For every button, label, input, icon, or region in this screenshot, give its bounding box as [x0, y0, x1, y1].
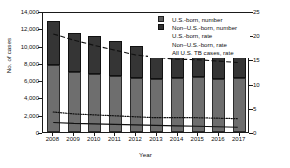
- tb-cases-chart: No. of cases Cases per 100,000 populatio…: [0, 0, 290, 168]
- x-axis-tick-mark: [94, 133, 95, 136]
- legend-key-swatch: [150, 24, 172, 30]
- x-axis-tick-mark: [239, 133, 240, 136]
- y-axis-left-tick-mark: [38, 133, 42, 134]
- x-axis-tick-label: 2008: [46, 136, 59, 142]
- legend-key-swatch: [150, 16, 172, 22]
- y-axis-left-tick-label: 6,000: [24, 78, 39, 84]
- line-all-u-s-tb-cases-rate: [53, 112, 238, 119]
- x-axis-tick-mark: [197, 133, 198, 136]
- y-axis-left-tick-label: 12,000: [21, 26, 39, 32]
- x-axis-tick-mark: [52, 133, 53, 136]
- x-axis-tick-label: 2015: [191, 136, 204, 142]
- y-axis-right-tick-label: 10: [253, 82, 260, 88]
- y-axis-right-tick-label: 20: [253, 33, 260, 39]
- y-axis-right-tick-label: 15: [253, 57, 260, 63]
- y-axis-left-tick-label: 4,000: [24, 95, 39, 101]
- x-axis-tick-mark: [135, 133, 136, 136]
- legend-item-label: All U.S. TB cases, rate: [172, 49, 234, 56]
- legend-item-label: U.S.-born, rate: [172, 32, 212, 39]
- y-axis-left-tick-label: 2,000: [24, 113, 39, 119]
- x-axis-tick-mark: [73, 133, 74, 136]
- legend-item: U.S.-born, rate: [150, 32, 248, 40]
- x-axis-tick-mark: [156, 133, 157, 136]
- y-axis-right-tick-mark: [249, 60, 253, 61]
- legend-swatch-us-born-icon: [158, 16, 164, 22]
- y-axis-left-title: No. of cases: [5, 26, 12, 86]
- x-axis-tick-mark: [114, 133, 115, 136]
- x-axis-tick-label: 2011: [108, 136, 121, 142]
- y-axis-right-tick-label: 25: [253, 9, 260, 15]
- legend-item: All U.S. TB cases, rate: [150, 48, 248, 56]
- y-axis-left-tick-label: 10,000: [21, 44, 39, 50]
- x-axis-tick-mark: [177, 133, 178, 136]
- x-axis-tick-label: 2017: [232, 136, 245, 142]
- x-axis-title: Year: [42, 151, 249, 158]
- y-axis-right-tick-mark: [249, 133, 253, 134]
- legend-swatch-non-us-born-icon: [158, 24, 164, 30]
- x-axis-tick-mark: [218, 133, 219, 136]
- x-axis-tick-label: 2009: [66, 136, 79, 142]
- legend-item-label: U.S.-born, number: [172, 16, 222, 23]
- y-axis-left-tick-label: 14,000: [21, 9, 39, 15]
- chart-legend: U.S.-born, numberNon–U.S.-born, numberU.…: [148, 13, 250, 58]
- x-axis-tick-label: 2010: [87, 136, 100, 142]
- y-axis-right-tick-mark: [249, 109, 253, 110]
- x-axis-tick-label: 2016: [211, 136, 224, 142]
- legend-item-label: Non–U.S.-born, rate: [172, 41, 227, 48]
- legend-item: Non–U.S.-born, number: [150, 23, 248, 31]
- legend-item-label: Non–U.S.-born, number: [172, 24, 237, 31]
- x-axis-tick-label: 2014: [170, 136, 183, 142]
- y-axis-left-tick-label: 8,000: [24, 61, 39, 67]
- legend-item: U.S.-born, number: [150, 15, 248, 23]
- x-axis-tick-label: 2013: [149, 136, 162, 142]
- y-axis-right-tick-label: 0: [253, 130, 256, 136]
- y-axis-right-tick-mark: [249, 85, 253, 86]
- line-u-s-born-rate: [53, 122, 238, 127]
- x-axis-tick-label: 2012: [128, 136, 141, 142]
- legend-item: Non–U.S.-born, rate: [150, 40, 248, 48]
- y-axis-right-tick-label: 5: [253, 106, 256, 112]
